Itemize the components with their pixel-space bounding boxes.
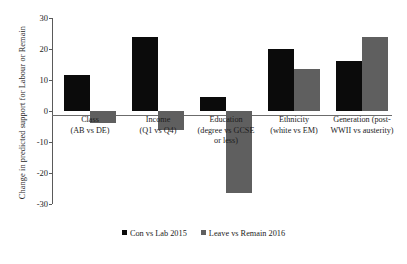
y-tick-mark <box>49 204 52 205</box>
bar <box>200 97 226 111</box>
legend-swatch-icon <box>122 230 127 235</box>
y-tick-mark <box>49 49 52 50</box>
y-tick-label: 20 <box>40 45 49 54</box>
y-axis-line <box>52 18 53 204</box>
legend-swatch-icon <box>201 230 206 235</box>
legend-label: Con vs Lab 2015 <box>130 229 187 238</box>
bar-chart-figure: Change in predicted support for Labour o… <box>0 0 407 264</box>
bar <box>132 37 158 111</box>
legend-item: Leave vs Remain 2016 <box>201 228 285 238</box>
y-tick-mark <box>49 111 52 112</box>
y-tick-mark <box>49 80 52 81</box>
y-tick-label: 10 <box>40 76 49 85</box>
y-tick-label: 30 <box>40 14 49 23</box>
y-axis-title: Change in predicted support for Labour o… <box>18 3 27 223</box>
y-tick-mark <box>49 18 52 19</box>
chart-legend: Con vs Lab 2015Leave vs Remain 2016 <box>0 228 407 238</box>
bar <box>268 49 294 111</box>
bar <box>336 61 362 111</box>
legend-item: Con vs Lab 2015 <box>122 228 187 238</box>
bar <box>64 75 90 111</box>
legend-label: Leave vs Remain 2016 <box>209 229 285 238</box>
plot-area: 3020100-10-20-30 Class (AB vs DE)Income … <box>52 18 392 204</box>
y-tick-label: 0 <box>44 107 48 116</box>
bar <box>362 37 388 111</box>
bar <box>294 69 320 111</box>
y-tick-label: -30 <box>37 200 48 209</box>
y-tick-mark <box>49 142 52 143</box>
y-tick-mark <box>49 173 52 174</box>
category-label: Generation (post- WWII vs austerity) <box>322 115 402 136</box>
y-tick-label: -20 <box>37 169 48 178</box>
y-tick-label: -10 <box>37 138 48 147</box>
